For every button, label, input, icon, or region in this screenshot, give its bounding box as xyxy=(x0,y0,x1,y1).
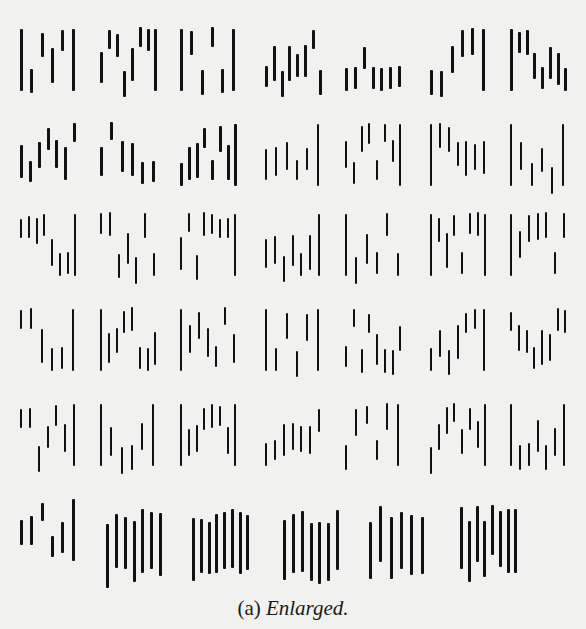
bar-segment xyxy=(354,67,357,89)
bar-segment xyxy=(465,141,467,176)
glyph-grid xyxy=(20,25,580,585)
bar-segment xyxy=(188,429,190,456)
bar-segment xyxy=(353,309,355,327)
bar-segment xyxy=(292,514,295,573)
bar-segment xyxy=(319,70,322,95)
bar-segment xyxy=(446,233,448,268)
bar-segment xyxy=(115,514,118,568)
bar-segment xyxy=(73,123,76,142)
bar-segment xyxy=(519,445,521,470)
glyph-O xyxy=(265,305,335,380)
bar-segment xyxy=(38,446,40,472)
bar-segment xyxy=(211,27,214,47)
bar-segment xyxy=(440,71,443,97)
bar-segment xyxy=(121,447,123,474)
bar-segment xyxy=(526,30,529,55)
bar-segment xyxy=(397,404,399,466)
bar-segment xyxy=(477,421,479,448)
glyph-3 xyxy=(180,25,250,100)
bar-segment xyxy=(461,252,463,274)
glyph-7 xyxy=(510,25,580,100)
bar-segment xyxy=(116,34,119,57)
bar-segment xyxy=(430,348,432,371)
bar-segment xyxy=(399,326,401,351)
bar-segment xyxy=(219,126,222,152)
bar-segment xyxy=(135,257,137,284)
bar-segment xyxy=(286,313,288,339)
bar-segment xyxy=(234,214,236,276)
bar-segment xyxy=(355,409,357,436)
bar-segment xyxy=(189,325,191,353)
bar-segment xyxy=(281,71,284,97)
bar-segment xyxy=(73,404,75,466)
bar-segment xyxy=(533,347,535,369)
glyph-P xyxy=(345,305,415,380)
bar-segment xyxy=(152,161,155,182)
bar-segment xyxy=(518,325,520,351)
bar-segment xyxy=(227,218,229,238)
bar-segment xyxy=(233,334,235,363)
bar-segment xyxy=(549,47,552,79)
bar-segment xyxy=(246,515,249,570)
bar-segment xyxy=(118,254,120,278)
bar-segment xyxy=(110,427,112,456)
glyph-C xyxy=(430,120,500,195)
bar-segment xyxy=(564,68,567,91)
bar-segment xyxy=(537,213,539,240)
bar-segment xyxy=(265,309,267,371)
bar-segment xyxy=(376,252,378,274)
bar-segment xyxy=(152,404,154,466)
bar-segment xyxy=(438,424,440,450)
bar-segment xyxy=(296,54,299,77)
bar-segment xyxy=(317,124,319,186)
bar-segment xyxy=(510,404,512,466)
bar-segment xyxy=(453,403,455,422)
glyph-W xyxy=(345,400,415,475)
bar-segment xyxy=(336,510,339,570)
bar-segment xyxy=(30,308,32,329)
bar-segment xyxy=(361,126,363,152)
bar-segment xyxy=(61,522,64,553)
bar-segment xyxy=(549,334,551,361)
glyph-1 xyxy=(20,25,90,100)
bar-segment xyxy=(554,428,556,456)
bar-segment xyxy=(312,30,315,49)
glyph-U xyxy=(180,400,250,475)
bar-segment xyxy=(545,212,547,238)
bar-segment xyxy=(154,29,157,91)
bar-segment xyxy=(384,349,386,373)
bar-segment xyxy=(265,239,267,268)
glyph-E xyxy=(20,210,90,285)
glyph-sym3 xyxy=(283,495,353,570)
bar-segment xyxy=(376,440,378,460)
bar-segment xyxy=(124,517,127,569)
bar-segment xyxy=(380,68,383,91)
bar-segment xyxy=(518,32,521,53)
bar-segment xyxy=(477,212,479,236)
bar-segment xyxy=(123,71,126,97)
bar-segment xyxy=(541,67,544,89)
bar-segment xyxy=(300,253,302,276)
glyph-S xyxy=(20,400,90,475)
bar-segment xyxy=(283,424,285,456)
bar-segment xyxy=(483,141,485,174)
bar-segment xyxy=(47,128,50,150)
bar-segment xyxy=(461,30,464,57)
bar-segment xyxy=(392,350,394,375)
bar-segment xyxy=(366,406,368,424)
bar-segment xyxy=(29,408,31,428)
bar-segment xyxy=(562,124,564,186)
bar-segment xyxy=(421,517,424,574)
bar-segment xyxy=(227,427,229,454)
bar-segment xyxy=(345,141,347,168)
bar-segment xyxy=(376,160,378,180)
bar-segment xyxy=(211,404,213,428)
bar-segment xyxy=(196,255,198,280)
bar-segment xyxy=(144,213,146,238)
glyph-0 xyxy=(180,120,250,195)
bar-segment xyxy=(514,509,517,573)
bar-segment xyxy=(397,253,399,276)
bar-segment xyxy=(318,409,320,432)
glyph-sym4 xyxy=(369,495,439,570)
bar-segment xyxy=(55,140,58,168)
